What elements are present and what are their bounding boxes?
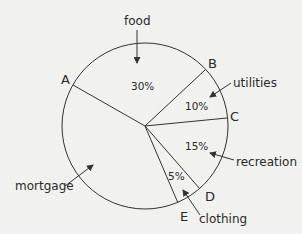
label-recreation: recreation <box>236 155 297 169</box>
point-B: B <box>208 56 217 71</box>
point-A: A <box>61 72 70 87</box>
radius-E <box>145 126 178 203</box>
arrow-utilities <box>210 83 231 97</box>
pie-chart: food utilities recreation clothing mortg… <box>0 0 302 234</box>
arrow-recreation <box>210 153 234 160</box>
label-food: food <box>124 14 151 28</box>
pct-clothing: 5% <box>168 170 185 182</box>
point-C: C <box>230 109 239 124</box>
label-utilities: utilities <box>233 76 277 90</box>
point-E: E <box>180 209 188 224</box>
radius-B <box>145 70 205 126</box>
radius-C <box>145 118 227 126</box>
pct-utilities: 10% <box>185 100 208 112</box>
point-D: D <box>205 189 215 204</box>
pct-recreation: 15% <box>185 140 208 152</box>
label-clothing: clothing <box>199 212 247 226</box>
pct-food: 30% <box>131 80 154 92</box>
label-mortgage: mortgage <box>15 179 74 193</box>
